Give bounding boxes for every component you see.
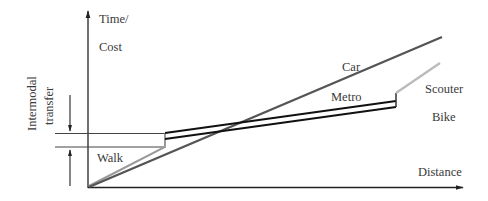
diagram-canvas <box>0 0 488 201</box>
metro-label: Metro <box>331 91 362 104</box>
car-label: Car <box>342 61 360 74</box>
transfer-label-line2: transfer <box>43 87 56 125</box>
walk-label: Walk <box>97 152 123 165</box>
transfer-label-line1: Intermodal <box>26 76 39 131</box>
y-axis-label-cost: Cost <box>99 41 122 54</box>
y-axis-label-time: Time/ <box>99 13 128 26</box>
scouter-label: Scouter <box>425 83 463 96</box>
metro-line-lower <box>165 107 396 139</box>
x-axis-label: Distance <box>418 166 462 179</box>
bike-label: Bike <box>432 111 456 124</box>
car-line <box>89 37 442 187</box>
